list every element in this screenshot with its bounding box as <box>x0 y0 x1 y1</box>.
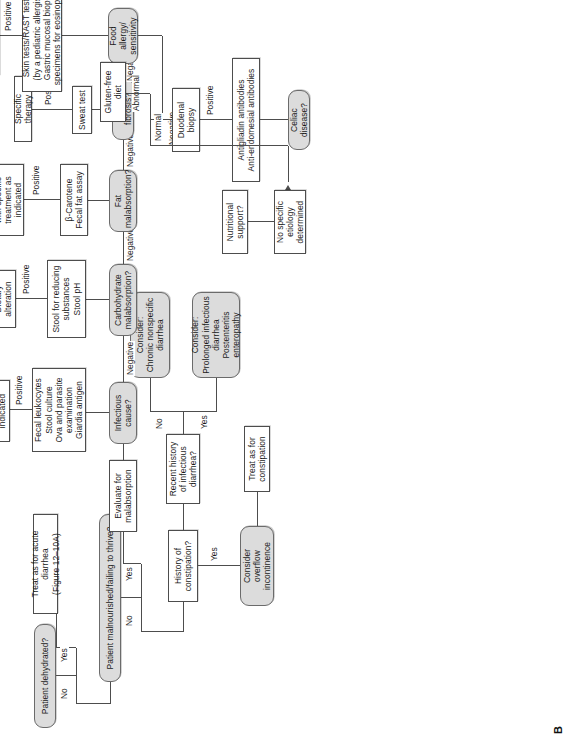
node-label: History of constipation? <box>173 534 194 598</box>
node-consider-prolonged-infectious[interactable]: Consider: Prolonged infectious diarrhea … <box>192 292 240 378</box>
node-label: Treat as for acute diarrhea (Figure 12–1… <box>30 518 61 610</box>
node-cf-tests[interactable]: Sweat test <box>72 86 92 134</box>
connector <box>141 564 142 632</box>
edge-label-normal: Normal <box>154 113 163 142</box>
connector <box>56 675 76 676</box>
connector <box>76 648 77 704</box>
connector <box>16 298 47 299</box>
figure-canvas: B Patient dehydrated? Yes No Treat as fo… <box>0 0 581 742</box>
node-treat-constipation[interactable]: Treat as for constipation <box>244 426 270 492</box>
node-label: No specific etiology determined <box>275 194 306 250</box>
connector <box>110 682 111 704</box>
connector <box>150 411 216 412</box>
edge-label-yes: Yes <box>200 414 209 430</box>
node-fat-tests[interactable]: β-Carotene Fecal fat assay <box>60 164 88 236</box>
node-history-constipation[interactable]: History of constipation? <box>168 530 198 602</box>
node-celiac-tests[interactable]: Antigliadin antibodies Anti-endomesial a… <box>232 58 260 182</box>
connector <box>123 563 141 564</box>
connector <box>86 412 109 413</box>
node-label: Food allergy/ sensitivity <box>108 12 139 60</box>
node-label: Treat as for constipation <box>247 430 268 488</box>
node-label: Fecal leukocytes Stool culture Ova and p… <box>33 372 84 448</box>
edge-label-positive: Positive <box>32 165 41 196</box>
edge-label-yes: Yes <box>210 546 219 562</box>
connector <box>56 614 57 648</box>
connector <box>86 299 109 300</box>
node-gluten-free-diet[interactable]: Gluten-free diet <box>100 62 126 122</box>
connector <box>183 504 184 530</box>
node-label: Dietary alteration <box>0 274 13 324</box>
node-dietary-alteration[interactable]: Dietary alteration <box>0 270 16 328</box>
node-label: Antigliadin antibodies Anti-endomesial a… <box>236 62 257 178</box>
connector <box>10 409 32 410</box>
node-label: Consider: Prolonged infectious diarrhea … <box>190 296 241 374</box>
connector <box>138 35 162 36</box>
node-evaluate-malabsorption[interactable]: Evaluate for malabsorption <box>109 460 137 532</box>
edge-label-positive: Positive <box>4 1 13 32</box>
connector <box>162 36 163 122</box>
connector <box>260 119 288 120</box>
connector <box>216 378 217 412</box>
node-label: Carbohydrate malabsorption? <box>113 268 134 332</box>
connector <box>141 631 183 632</box>
node-label: Treat as indicated <box>0 384 7 438</box>
node-patient-malnourished[interactable]: Patient malnourished/failing to thrive? <box>99 514 121 682</box>
flowchart: B Patient dehydrated? Yes No Treat as fo… <box>0 0 581 742</box>
node-label: Sweat test <box>77 90 87 130</box>
connector <box>150 94 151 146</box>
connector <box>32 109 72 110</box>
edge-label-yes: Yes <box>125 566 134 582</box>
node-label: β-Carotene Fecal fat assay <box>64 168 85 232</box>
edge-label-positive: Positive <box>15 375 24 406</box>
connector <box>123 336 124 382</box>
node-fat-malabsorption[interactable]: Fat malabsorption? <box>109 170 137 232</box>
connector <box>183 412 184 434</box>
node-label: Skin tests/RAST tests (by a pediatric al… <box>21 0 62 88</box>
node-label: Consider: Chronic nonspecific diarrhea <box>135 296 166 374</box>
edge-label-no: No <box>60 687 69 700</box>
node-treat-acute-diarrhea[interactable]: Treat as for acute diarrhea (Figure 12–1… <box>33 514 58 614</box>
node-nutritional-support[interactable]: Nutritional support? <box>222 190 248 254</box>
node-duodenal-biopsy[interactable]: Duodenal biopsy <box>172 88 200 152</box>
edge-label-yes: Yes <box>60 647 69 663</box>
node-celiac-disease[interactable]: Celiac disease? <box>288 90 310 150</box>
node-further-workup[interactable]: Further workup with specific treatment a… <box>0 164 24 236</box>
connector <box>0 35 22 36</box>
connector <box>288 146 289 182</box>
connector <box>248 221 274 222</box>
node-label: Celiac disease? <box>289 94 310 146</box>
connector <box>200 119 232 120</box>
node-food-allergy[interactable]: Food allergy/ sensitivity <box>108 8 138 64</box>
node-allergy-tests[interactable]: Skin tests/RAST tests (by a pediatric al… <box>22 0 62 92</box>
node-label: Fat malabsorption? <box>113 174 134 228</box>
connector <box>123 232 124 264</box>
node-carbohydrate-malabsorption[interactable]: Carbohydrate malabsorption? <box>109 264 137 336</box>
connector <box>123 532 124 564</box>
connector <box>24 199 60 200</box>
node-recent-history-infectious[interactable]: Recent history of infectious diarrhea? <box>166 434 200 504</box>
edge-label-positive: Positive <box>206 85 215 116</box>
node-patient-dehydrated[interactable]: Patient dehydrated? <box>34 624 56 728</box>
node-label: Consider overflow incontinence <box>242 530 273 602</box>
node-treat-as-indicated[interactable]: Treat as indicated <box>0 380 10 442</box>
node-label: Nutritional support? <box>225 194 246 250</box>
node-label: Stool for reducing substances Stool pH <box>51 264 82 334</box>
node-label: Further workup with specific treatment a… <box>0 168 24 232</box>
node-infectious-tests[interactable]: Fecal leukocytes Stool culture Ova and p… <box>32 368 86 452</box>
connector <box>121 597 141 598</box>
edge-label-no: No <box>125 614 134 627</box>
node-no-specific-etiology[interactable]: No specific etiology determined <box>274 190 306 254</box>
node-consider-overflow[interactable]: Consider overflow incontinence <box>240 526 274 606</box>
edge-label-positive: Positive <box>22 264 31 295</box>
node-carbohydrate-tests[interactable]: Stool for reducing substances Stool pH <box>47 260 86 338</box>
connector <box>183 602 184 632</box>
connector <box>123 140 124 170</box>
connector <box>257 492 258 526</box>
node-label: Patient dehydrated? <box>40 628 50 724</box>
connector <box>62 35 108 36</box>
panel-letter: B <box>552 726 564 734</box>
connector <box>150 378 151 412</box>
node-infectious-cause[interactable]: Infectious cause? <box>109 382 137 444</box>
connector <box>150 145 288 146</box>
connector <box>88 200 109 201</box>
